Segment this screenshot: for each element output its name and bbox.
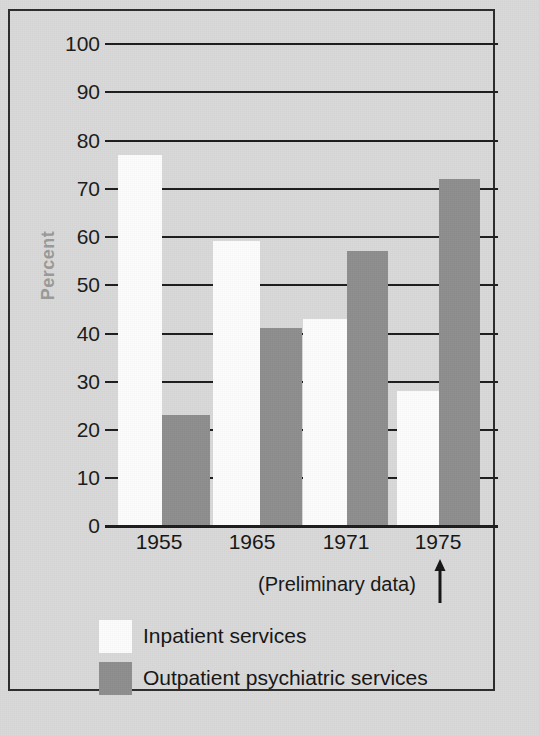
- bar-1971-inpatient: [303, 319, 347, 526]
- xtick-label-1971: 1971: [306, 530, 386, 554]
- bar-1965-inpatient: [213, 241, 260, 526]
- ytick-label-30: 30: [40, 371, 100, 392]
- bar-1955-inpatient: [118, 155, 162, 526]
- legend-label-outpatient: Outpatient psychiatric services: [143, 666, 428, 690]
- preliminary-data-note: (Preliminary data): [258, 573, 416, 596]
- ytick-label-20: 20: [40, 419, 100, 440]
- ytick-label-80: 80: [40, 130, 100, 151]
- legend-item-inpatient: Inpatient services: [99, 615, 428, 657]
- chart-screenshot: 100 90 80 70 60 50 40 30: [0, 0, 539, 736]
- legend-label-inpatient: Inpatient services: [143, 624, 306, 648]
- chart-legend: Inpatient services Outpatient psychiatri…: [99, 615, 428, 699]
- bar-1965-outpatient: [260, 328, 302, 526]
- bar-1955-outpatient: [162, 415, 210, 526]
- legend-swatch-inpatient: [99, 620, 132, 653]
- ytick-label-40: 40: [40, 323, 100, 344]
- gridline-0: [105, 525, 498, 528]
- plot-area: 100 90 80 70 60 50 40 30: [0, 0, 539, 736]
- ytick-label-10: 10: [40, 467, 100, 488]
- bar-1975-inpatient: [397, 391, 439, 526]
- xtick-label-1955: 1955: [119, 530, 199, 554]
- y-axis-title: Percent: [38, 216, 59, 316]
- gridline-90: [105, 91, 498, 93]
- legend-swatch-outpatient: [99, 662, 132, 695]
- ytick-label-0: 0: [40, 515, 100, 536]
- gridline-100: [105, 43, 498, 45]
- legend-item-outpatient: Outpatient psychiatric services: [99, 657, 428, 699]
- bar-1975-outpatient: [439, 179, 480, 526]
- bar-1971-outpatient: [347, 251, 388, 526]
- ytick-label-100: 100: [40, 33, 100, 54]
- up-arrow-icon: [434, 559, 446, 603]
- gridline-80: [105, 140, 498, 142]
- ytick-label-90: 90: [40, 81, 100, 102]
- ytick-label-70: 70: [40, 178, 100, 199]
- xtick-label-1965: 1965: [212, 530, 292, 554]
- xtick-label-1975: 1975: [398, 530, 478, 554]
